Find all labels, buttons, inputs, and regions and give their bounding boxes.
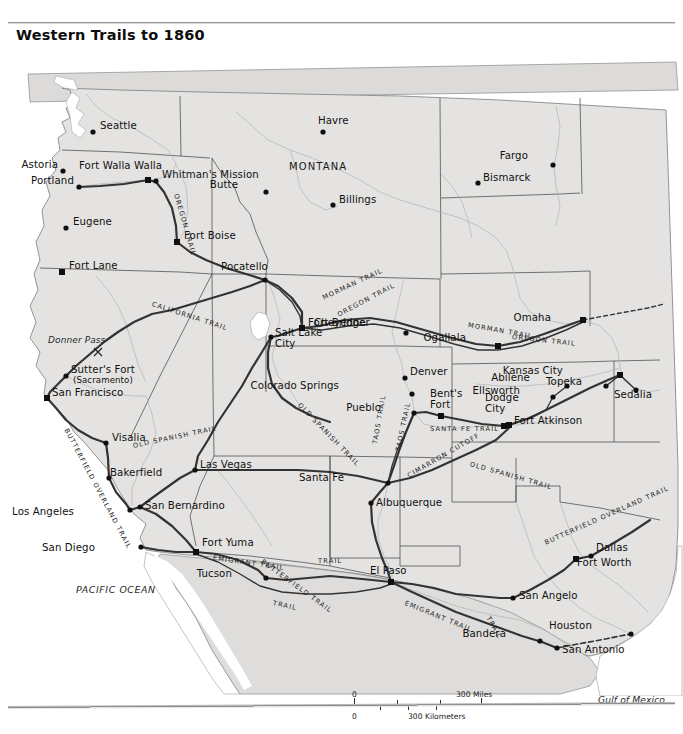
city-label-sedalia: Sedalia xyxy=(614,390,652,400)
city-marker-bent-s-fort[interactable] xyxy=(438,413,444,419)
city-marker-billings[interactable] xyxy=(330,202,335,207)
city-label-san-bernardino: San Bernardino xyxy=(145,501,225,511)
city-marker-albuquerque[interactable] xyxy=(368,500,373,505)
city-marker-los-angeles[interactable] xyxy=(127,507,132,512)
city-label-salt-lake-city: Salt LakeCity xyxy=(275,328,322,349)
city-label-bismarck: Bismarck xyxy=(483,173,531,183)
city-marker-colorado-springs[interactable] xyxy=(409,391,414,396)
city-label-ellsworth: Ellsworth xyxy=(472,386,520,396)
city-label-san-angelo: San Angelo xyxy=(519,591,578,601)
feature-label-donner-pass: Donner Pass xyxy=(48,336,105,345)
city-marker-bandera[interactable] xyxy=(537,638,542,643)
city-label-fort-atkinson: Fort Atkinson xyxy=(514,416,582,426)
city-marker-whitman-s-mission[interactable] xyxy=(153,178,158,183)
city-label-las-vegas: Las Vegas xyxy=(200,460,252,470)
city-label-bakerfield: Bakerfield xyxy=(110,468,162,478)
city-label-cheyenne: Cheyenne xyxy=(314,318,366,328)
city-label-fort-lane: Fort Lane xyxy=(69,261,118,271)
city-marker-tucson[interactable] xyxy=(263,575,268,580)
city-marker-omaha[interactable] xyxy=(580,317,586,323)
city-marker-bismarck[interactable] xyxy=(475,180,480,185)
city-label-topeka: Topeka xyxy=(546,377,582,387)
city-marker-visalia[interactable] xyxy=(103,440,108,445)
city-label-houston: Houston xyxy=(549,621,592,631)
city-marker-santa-fe[interactable] xyxy=(385,480,390,485)
city-marker-pocatello[interactable] xyxy=(262,277,267,282)
city-marker-pueblo[interactable] xyxy=(411,410,416,415)
top-divider xyxy=(8,22,675,24)
city-marker-sutter-s-fort[interactable] xyxy=(63,373,68,378)
city-marker-san-angelo[interactable] xyxy=(510,595,515,600)
city-label-los-angeles: Los Angeles xyxy=(12,507,74,517)
page-title: Western Trails to 1860 xyxy=(16,27,205,43)
city-marker-san-diego[interactable] xyxy=(138,544,143,549)
city-label-ogallala: Ogallala xyxy=(423,333,466,343)
city-label-portland: Portland xyxy=(31,176,74,186)
city-label-pocatello: Pocatello xyxy=(221,262,268,272)
scale-bar: 0 300 Miles 0 300 Kilometers xyxy=(352,690,532,734)
city-label-eugene: Eugene xyxy=(73,217,112,227)
scale-km-zero: 0 xyxy=(352,712,357,721)
city-marker-cheyenne[interactable] xyxy=(403,330,408,335)
city-label-bent-s-fort: Bent'sFort xyxy=(430,389,462,410)
city-marker-san-bernardino[interactable] xyxy=(137,504,142,509)
city-marker-kansas-city[interactable] xyxy=(617,372,623,378)
city-marker-san-antonio[interactable] xyxy=(554,645,559,650)
city-label-billings: Billings xyxy=(339,195,376,205)
city-marker-portland[interactable] xyxy=(76,184,81,189)
city-marker-fort-atkinson[interactable] xyxy=(506,422,512,428)
city-marker-salt-lake-city[interactable] xyxy=(268,334,273,339)
city-marker-astoria[interactable] xyxy=(60,168,65,173)
city-label-seattle: Seattle xyxy=(100,121,137,131)
trail-label-trail-16: TRAIL xyxy=(318,557,342,565)
city-label-omaha: Omaha xyxy=(514,313,551,323)
city-marker-ogallala[interactable] xyxy=(495,343,501,349)
city-marker-las-vegas[interactable] xyxy=(192,467,197,472)
city-marker-fort-lane[interactable] xyxy=(59,269,65,275)
city-label-denver: Denver xyxy=(410,367,448,377)
trail-label-santa-fe-trail-9: SANTA FE TRAIL xyxy=(430,425,499,433)
city-label-san-francisco: San Francisco xyxy=(52,388,123,398)
city-label-santa-fe: Santa Fe xyxy=(299,473,344,483)
city-label-fort-walla-walla: Fort Walla Walla xyxy=(79,161,162,171)
city-label-fort-worth: Fort Worth xyxy=(577,558,632,568)
map-page: Western Trails to 1860 xyxy=(0,0,683,734)
city-label-fargo: Fargo xyxy=(500,151,528,161)
city-label-sacramento: (Sacramento) xyxy=(73,376,133,385)
state-label-montana: MONTANA xyxy=(289,162,347,172)
city-marker-eugene[interactable] xyxy=(63,225,68,230)
city-label-astoria: Astoria xyxy=(22,160,58,170)
city-label-el-paso: El Paso xyxy=(370,566,407,576)
city-marker-san-francisco[interactable] xyxy=(44,395,50,401)
scale-km-max: 300 Kilometers xyxy=(408,712,466,721)
city-marker-topeka[interactable] xyxy=(603,383,608,388)
city-label-colorado-springs: Colorado Springs xyxy=(250,381,339,391)
city-label-butte: Butte xyxy=(210,180,238,190)
water-label-pacific-ocean: PACIFIC OCEAN xyxy=(76,585,156,595)
city-label-albuquerque: Albuquerque xyxy=(376,498,442,508)
city-label-san-antonio: San Antonio xyxy=(562,645,625,655)
city-label-kansas-city: Kansas City xyxy=(503,366,563,376)
bottom-divider xyxy=(8,702,675,709)
city-marker-el-paso[interactable] xyxy=(388,579,394,585)
city-marker-ellsworth[interactable] xyxy=(550,394,555,399)
city-label-havre: Havre xyxy=(318,116,349,126)
scale-miles-max: 300 Miles xyxy=(456,690,492,699)
city-label-san-diego: San Diego xyxy=(42,543,95,553)
city-marker-seattle[interactable] xyxy=(90,129,95,134)
city-label-sutter-s-fort: Sutter's Fort xyxy=(71,365,135,375)
city-label-fort-yuma: Fort Yuma xyxy=(202,538,254,548)
city-label-tucson: Tucson xyxy=(197,569,232,579)
map-canvas: SeattleAstoriaPortlandFort Walla WallaWh… xyxy=(0,46,683,696)
city-marker-fort-walla-walla[interactable] xyxy=(145,177,151,183)
ghost-header-text xyxy=(18,0,318,14)
city-marker-havre[interactable] xyxy=(320,129,325,134)
city-marker-fort-boise[interactable] xyxy=(174,239,180,245)
city-marker-fort-yuma[interactable] xyxy=(193,549,199,555)
city-marker-butte[interactable] xyxy=(263,189,268,194)
city-label-dallas: Dallas xyxy=(596,543,628,553)
city-marker-denver[interactable] xyxy=(402,375,407,380)
city-marker-fargo[interactable] xyxy=(550,162,555,167)
city-marker-houston[interactable] xyxy=(628,631,633,636)
